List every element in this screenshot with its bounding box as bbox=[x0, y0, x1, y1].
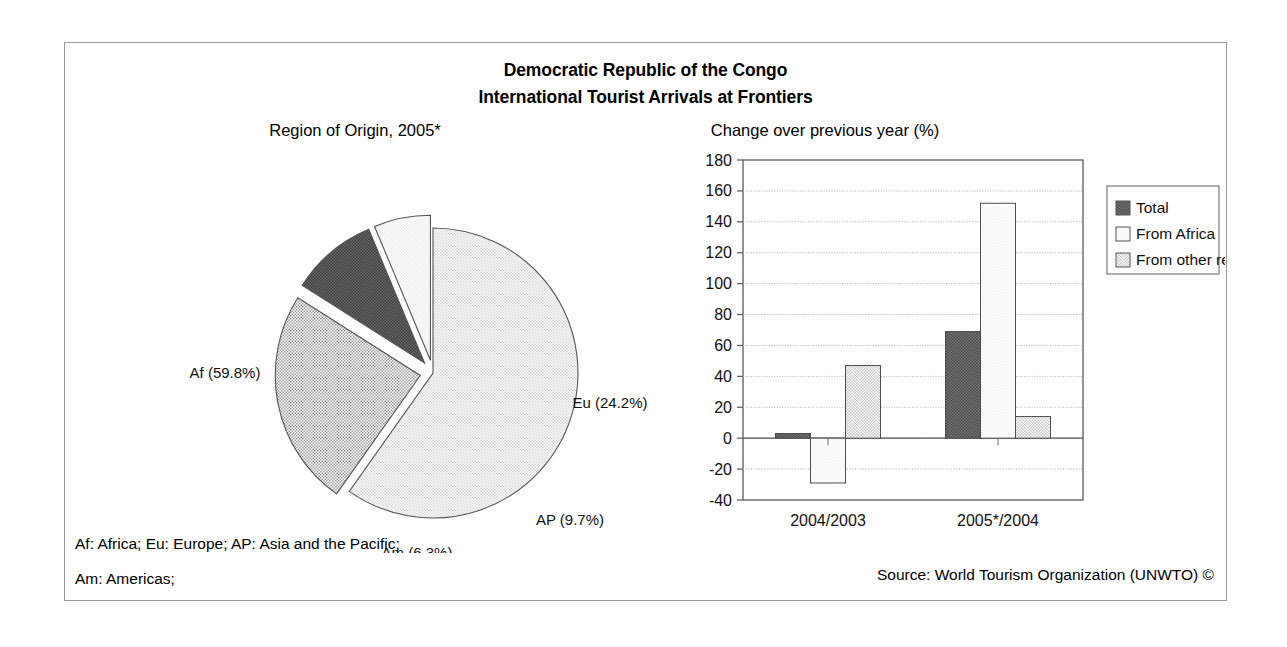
x-category-label: 2005*/2004 bbox=[957, 512, 1039, 529]
pie-label-af: Af (59.8%) bbox=[190, 364, 261, 381]
plot-frame bbox=[743, 160, 1083, 500]
bar-20042003-total bbox=[776, 434, 811, 439]
bar-chart: -40-200204060801001201401601802004/20032… bbox=[625, 148, 1225, 568]
bar-20052004-total bbox=[946, 332, 981, 439]
y-tick-label: 40 bbox=[714, 368, 732, 385]
source-attribution: Source: World Tourism Organization (UNWT… bbox=[877, 566, 1214, 584]
legend-label-from-africa: From Africa bbox=[1136, 225, 1216, 242]
bar-20052004-from-africa bbox=[981, 203, 1016, 438]
pie-chart-svg: Af (59.8%)Eu (24.2%)AP (9.7%)Am (6.3%) bbox=[155, 153, 675, 553]
y-tick-label: 0 bbox=[723, 430, 732, 447]
footnote-line-1: Af: Africa; Eu: Europe; AP: Asia and the… bbox=[75, 535, 400, 553]
pie-chart: Af (59.8%)Eu (24.2%)AP (9.7%)Am (6.3%) bbox=[155, 153, 675, 553]
legend-label-from-other-regions: From other regions bbox=[1136, 251, 1225, 268]
x-category-label: 2004/2003 bbox=[790, 512, 866, 529]
bar-chart-title: Change over previous year (%) bbox=[665, 121, 985, 140]
y-tick-label: -20 bbox=[709, 461, 732, 478]
bar-20052004-from-other-regions bbox=[1016, 417, 1051, 439]
y-tick-label: 120 bbox=[705, 244, 732, 261]
y-tick-label: 180 bbox=[705, 152, 732, 169]
legend-swatch-from-other-regions bbox=[1116, 253, 1130, 267]
y-tick-label: 100 bbox=[705, 275, 732, 292]
bar-chart-svg: -40-200204060801001201401601802004/20032… bbox=[625, 148, 1225, 568]
y-tick-label: 140 bbox=[705, 213, 732, 230]
footnote-line-2: Am: Americas; bbox=[75, 570, 175, 588]
y-tick-label: 20 bbox=[714, 399, 732, 416]
bar-20042003-from-other-regions bbox=[846, 366, 881, 439]
legend-swatch-from-africa bbox=[1116, 227, 1130, 241]
pie-label-ap: AP (9.7%) bbox=[536, 511, 604, 528]
y-tick-label: 60 bbox=[714, 337, 732, 354]
chart-figure-frame: Democratic Republic of the Congo Interna… bbox=[64, 42, 1227, 601]
figure-title-line-1: Democratic Republic of the Congo bbox=[65, 60, 1226, 81]
y-tick-label: -40 bbox=[709, 492, 732, 509]
legend-swatch-total bbox=[1116, 201, 1130, 215]
y-tick-label: 80 bbox=[714, 306, 732, 323]
y-tick-label: 160 bbox=[705, 182, 732, 199]
pie-chart-title: Region of Origin, 2005* bbox=[205, 121, 505, 140]
legend-label-total: Total bbox=[1136, 199, 1169, 216]
figure-title-line-2: International Tourist Arrivals at Fronti… bbox=[65, 87, 1226, 108]
